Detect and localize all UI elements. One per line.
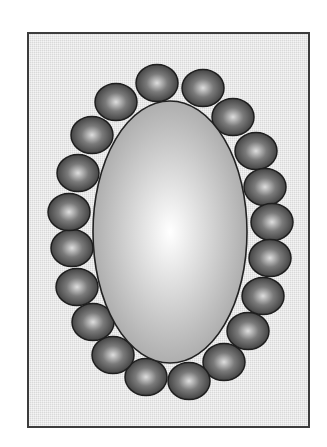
- bead-18: [57, 155, 99, 192]
- illustration-canvas: [0, 0, 327, 447]
- bead-9: [227, 313, 269, 350]
- bead-1: [136, 65, 178, 102]
- bead-2: [182, 70, 224, 107]
- bead-4: [235, 133, 277, 170]
- bead-5: [244, 169, 286, 206]
- bead-8: [242, 278, 284, 315]
- bead-19: [71, 117, 113, 154]
- pendant-ellipse: [93, 101, 247, 363]
- bead-15: [56, 269, 98, 306]
- bead-20: [95, 84, 137, 121]
- bead-7: [249, 240, 291, 277]
- bead-17: [48, 194, 90, 231]
- bead-11: [168, 363, 210, 400]
- bead-6: [251, 204, 293, 241]
- necklace-diagram: [0, 0, 327, 447]
- bead-16: [51, 230, 93, 267]
